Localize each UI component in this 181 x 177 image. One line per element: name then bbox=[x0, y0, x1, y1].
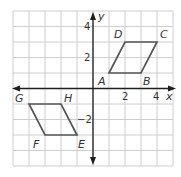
vertex-label-f: F bbox=[33, 138, 40, 151]
vertex-label-a: A bbox=[97, 75, 106, 88]
coordinate-plane: A B C D E F G H 4 2 −2 2 4 y x bbox=[0, 0, 181, 177]
vertex-labels: A B C D E F G H bbox=[15, 28, 168, 151]
vertex-label-b: B bbox=[143, 75, 151, 88]
y-axis-up-arrow-icon bbox=[90, 12, 96, 20]
vertex-label-c: C bbox=[160, 28, 168, 41]
tick-label-y-4: 4 bbox=[84, 21, 90, 32]
vertex-label-g: G bbox=[15, 92, 24, 105]
vertex-label-e: E bbox=[78, 138, 85, 151]
x-axis bbox=[12, 86, 176, 92]
tick-label-x-2: 2 bbox=[122, 91, 128, 102]
vertex-label-d: D bbox=[114, 28, 122, 41]
tick-label-y-neg2: −2 bbox=[77, 114, 92, 125]
x-axis-label: x bbox=[165, 90, 173, 103]
tick-label-x-4: 4 bbox=[153, 91, 159, 102]
y-axis-label: y bbox=[97, 10, 105, 23]
y-axis-down-arrow-icon bbox=[90, 157, 96, 165]
vertex-label-h: H bbox=[64, 92, 72, 105]
tick-label-y-2: 2 bbox=[84, 52, 90, 63]
